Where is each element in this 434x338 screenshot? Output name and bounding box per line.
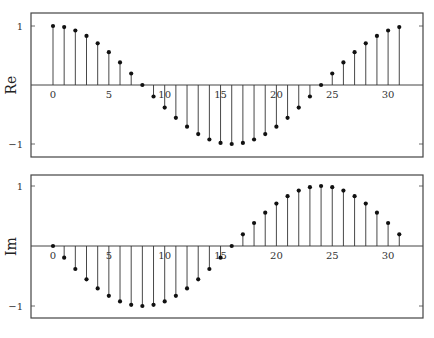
stem-marker (218, 141, 222, 145)
stem-marker (352, 50, 356, 54)
stem-marker (151, 303, 155, 307)
stem-marker (163, 105, 167, 109)
stem-marker (375, 34, 379, 38)
stem-marker (308, 185, 312, 189)
stem-marker (196, 277, 200, 281)
stem-marker (73, 267, 77, 271)
stem-marker (73, 28, 77, 32)
stem-marker (174, 116, 178, 120)
stem-marker (96, 41, 100, 45)
stem-marker (62, 256, 66, 260)
stem-marker (140, 83, 144, 87)
stem-marker (230, 142, 234, 146)
stem-marker (107, 294, 111, 298)
stem-marker (386, 221, 390, 225)
stem-marker (118, 60, 122, 64)
x-tick-label: 20 (270, 250, 283, 261)
stem-marker (96, 286, 100, 290)
stem-marker (263, 132, 267, 136)
stem-marker (230, 244, 234, 248)
stem-marker (252, 221, 256, 225)
stem-marker (285, 116, 289, 120)
stem-marker (196, 132, 200, 136)
stem-marker (341, 60, 345, 64)
stem-marker (274, 125, 278, 129)
stem-marker (129, 71, 133, 75)
y-tick-label: 1 (17, 21, 23, 32)
stem-marker (330, 185, 334, 189)
stem-marker (263, 211, 267, 215)
stem-marker (319, 83, 323, 87)
stem-marker (285, 194, 289, 198)
y-tick-label: −1 (8, 139, 23, 150)
x-tick-label: 5 (106, 89, 112, 100)
stem-marker (129, 303, 133, 307)
stem-marker (375, 211, 379, 215)
stem-marker (163, 299, 167, 303)
stem-marker (62, 25, 66, 29)
stem-marker (174, 294, 178, 298)
stem-marker (297, 105, 301, 109)
x-tick-label: 0 (50, 89, 56, 100)
stem-marker (185, 286, 189, 290)
stem-marker (51, 24, 55, 28)
x-tick-label: 0 (50, 250, 56, 261)
y-axis-label: Im (3, 237, 19, 256)
x-tick-label: 30 (382, 250, 395, 261)
stem-marker (84, 277, 88, 281)
stem-marker (397, 25, 401, 29)
y-tick-label: 1 (17, 181, 23, 192)
stem-marker (51, 244, 55, 248)
stem-marker (341, 188, 345, 192)
stem-marker (319, 184, 323, 188)
y-axis-label: Re (3, 76, 19, 95)
stem-marker (241, 232, 245, 236)
stem-marker (252, 137, 256, 141)
y-tick-label: −1 (8, 301, 23, 312)
stem-chart: 1−1051015202530Re1−1051015202530Im (0, 0, 434, 338)
stem-marker (241, 141, 245, 145)
stem-marker (185, 125, 189, 129)
stem-marker (274, 201, 278, 205)
stem-marker (107, 50, 111, 54)
stem-marker (364, 201, 368, 205)
stem-marker (218, 256, 222, 260)
stem-marker (297, 188, 301, 192)
x-tick-label: 25 (326, 89, 339, 100)
stem-marker (330, 71, 334, 75)
stem-marker (207, 267, 211, 271)
stem-marker (352, 194, 356, 198)
x-tick-label: 30 (382, 89, 395, 100)
imag-part-panel: 1−1051015202530Im (3, 175, 423, 318)
stem-marker (140, 304, 144, 308)
x-tick-label: 25 (326, 250, 339, 261)
stem-marker (151, 94, 155, 98)
stem-marker (364, 41, 368, 45)
stem-marker (207, 137, 211, 141)
stem-marker (386, 28, 390, 32)
stem-marker (308, 94, 312, 98)
stem-marker (84, 34, 88, 38)
stem-marker (397, 232, 401, 236)
stem-marker (118, 299, 122, 303)
real-part-panel: 1−1051015202530Re (3, 13, 423, 157)
